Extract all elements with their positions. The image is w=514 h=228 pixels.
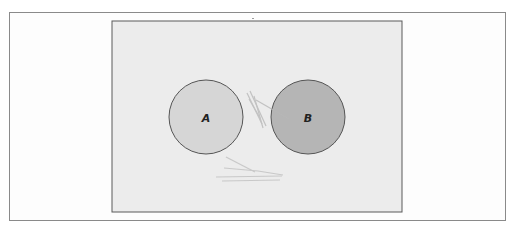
diagram-panel — [112, 21, 402, 212]
diagram-canvas: A B — [0, 0, 514, 228]
circle-a-label: A — [201, 112, 211, 125]
circle-b-label: B — [304, 112, 312, 125]
